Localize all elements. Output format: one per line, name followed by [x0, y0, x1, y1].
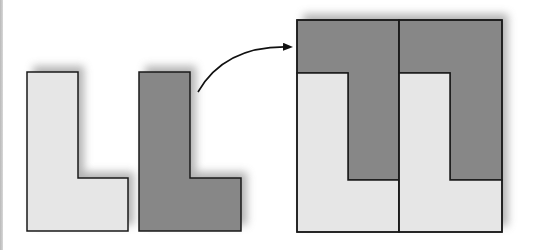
light-l-tile	[27, 72, 128, 231]
composite-rectangle	[297, 20, 502, 232]
curved-arrow-icon	[198, 47, 290, 92]
dark-l-tile	[139, 72, 241, 231]
composite-cell-1	[297, 20, 399, 232]
composite-cell-2	[399, 20, 502, 232]
tiling-diagram	[0, 0, 536, 250]
